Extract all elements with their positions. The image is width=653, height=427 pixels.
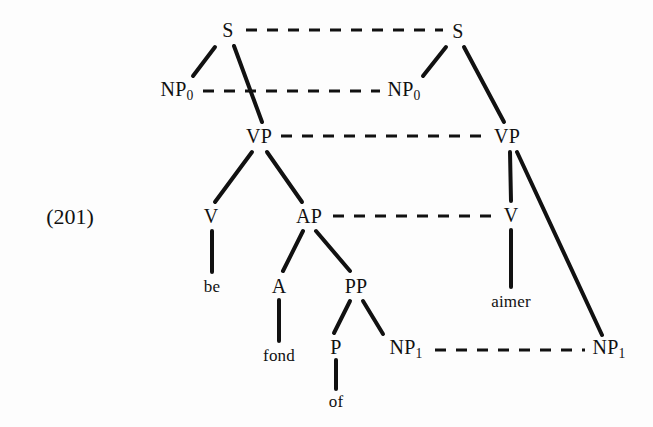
tree-branch bbox=[267, 152, 302, 202]
tree-node-aimer: aimer bbox=[491, 293, 531, 310]
figure-canvas: SSNP0NP0VPVPVAPVbeAPPaimerfondPNP1NP1of … bbox=[0, 0, 653, 427]
tree-node-np1-right: NP1 bbox=[593, 337, 626, 360]
tree-branch bbox=[193, 47, 215, 76]
tree-branch bbox=[234, 46, 262, 122]
tree-node-label: be bbox=[204, 277, 220, 296]
tree-node-np1-left: NP1 bbox=[390, 337, 423, 360]
tree-node-label: V bbox=[204, 205, 219, 227]
tree-node-label: S bbox=[222, 19, 233, 41]
tree-node-np0-right: NP0 bbox=[388, 79, 421, 102]
tree-node-fond: fond bbox=[263, 347, 295, 364]
tree-branch bbox=[510, 152, 511, 201]
tree-node-label: NP bbox=[161, 78, 187, 100]
tree-branch bbox=[464, 47, 504, 122]
tree-node-v-right: V bbox=[504, 205, 519, 225]
tree-node-label: V bbox=[504, 204, 519, 226]
tree-node-ap-left: AP bbox=[296, 206, 322, 226]
tree-node-a-left: A bbox=[272, 276, 287, 296]
tree-node-be: be bbox=[204, 278, 220, 295]
tree-node-label: S bbox=[452, 20, 463, 42]
tree-node-label: NP bbox=[593, 336, 619, 358]
tree-branch bbox=[334, 301, 350, 333]
tree-node-label: fond bbox=[263, 346, 295, 365]
tree-node-label: A bbox=[272, 275, 287, 297]
tree-branch bbox=[215, 152, 252, 202]
tree-edges-svg bbox=[0, 0, 653, 427]
tree-node-of: of bbox=[329, 393, 344, 410]
tree-node-label: NP bbox=[390, 336, 416, 358]
tree-node-label: of bbox=[329, 392, 344, 411]
tree-node-s-left: S bbox=[222, 20, 233, 40]
tree-node-pp-left: PP bbox=[345, 276, 368, 296]
tree-node-label: P bbox=[330, 336, 341, 358]
tree-node-s-right: S bbox=[452, 21, 463, 41]
tree-node-subscript: 0 bbox=[414, 88, 421, 103]
tree-node-v-left: V bbox=[204, 206, 219, 226]
tree-node-subscript: 0 bbox=[187, 88, 194, 103]
tree-branch bbox=[423, 47, 446, 76]
tree-node-label: AP bbox=[296, 205, 322, 227]
tree-node-np0-left: NP0 bbox=[161, 79, 194, 102]
tree-node-label: aimer bbox=[491, 292, 531, 311]
tree-branch bbox=[363, 301, 383, 334]
tree-node-p-left: P bbox=[330, 337, 341, 357]
example-number-label: (201) bbox=[46, 206, 94, 228]
tree-branch bbox=[283, 231, 303, 271]
tree-node-vp-right: VP bbox=[494, 126, 520, 146]
tree-node-label: VP bbox=[246, 125, 272, 147]
tree-node-subscript: 1 bbox=[416, 346, 423, 361]
tree-branch bbox=[316, 231, 350, 271]
tree-node-label: NP bbox=[388, 78, 414, 100]
tree-node-subscript: 1 bbox=[619, 346, 626, 361]
tree-node-vp-left: VP bbox=[246, 126, 272, 146]
tree-node-label: VP bbox=[494, 125, 520, 147]
tree-node-label: PP bbox=[345, 275, 368, 297]
